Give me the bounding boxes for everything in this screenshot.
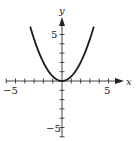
y-tick-label-neg5: −5 [46, 123, 61, 134]
y-axis-label: y [58, 5, 65, 16]
y-tick-label-pos5: 5 [51, 29, 57, 40]
function-graph: x y −5 5 5 −5 [0, 0, 137, 141]
x-axis-label: x [126, 76, 132, 87]
x-tick-label-pos5: 5 [104, 85, 110, 96]
x-axis-arrow-icon [115, 78, 124, 84]
y-axis-arrow-icon [59, 17, 65, 26]
x-tick-label-neg5: −5 [3, 85, 18, 96]
